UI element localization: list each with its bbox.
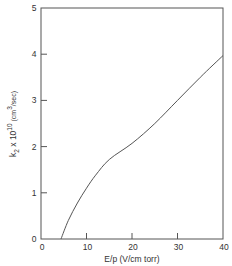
x-axis-ticks: 010203040 xyxy=(40,233,229,252)
x-tick-label: 0 xyxy=(40,242,45,252)
y-tick-label: 4 xyxy=(32,49,37,59)
y-tick-label: 5 xyxy=(32,3,37,13)
x-tick-label: 30 xyxy=(174,242,184,252)
y-tick-label: 2 xyxy=(32,142,37,152)
x-tick-label: 20 xyxy=(128,242,138,252)
k2-curve xyxy=(61,56,223,239)
x-tick-label: 40 xyxy=(219,242,229,252)
svg-text:k2 x 1010 (cm3/sec): k2 x 1010 (cm3/sec) xyxy=(6,91,20,157)
y-tick-label: 0 xyxy=(32,234,37,244)
y-tick-label: 1 xyxy=(32,188,37,198)
y-axis-title: k2 x 1010 (cm3/sec) xyxy=(6,91,20,157)
x-tick-label: 10 xyxy=(83,242,93,252)
y-axis-ticks: 012345 xyxy=(32,3,47,244)
plot-frame xyxy=(41,8,223,239)
chart: 012345 010203040 E/p (V/cm torr) k2 x 10… xyxy=(0,0,232,266)
y-tick-label: 3 xyxy=(32,95,37,105)
x-axis-title: E/p (V/cm torr) xyxy=(104,254,159,264)
